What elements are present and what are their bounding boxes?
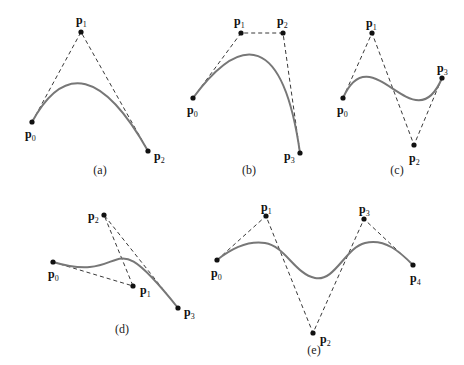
panel-caption: (e) <box>307 343 320 357</box>
bezier-curve <box>32 83 148 151</box>
control-point <box>340 95 345 100</box>
control-point <box>101 212 106 217</box>
point-label: p3 <box>284 149 295 165</box>
control-point <box>280 30 285 35</box>
point-label: p3 <box>359 202 370 218</box>
point-label: p4 <box>410 271 421 287</box>
control-polygon <box>217 216 413 333</box>
panel-e: p0p1p2p3p4(e) <box>211 200 421 357</box>
control-point <box>130 283 135 288</box>
bezier-curve <box>217 242 413 278</box>
control-point <box>310 330 315 335</box>
control-point <box>214 257 219 262</box>
point-label: p2 <box>409 151 420 167</box>
point-label: p1 <box>234 14 245 30</box>
control-point <box>78 29 83 34</box>
control-point <box>297 150 302 155</box>
point-label: p0 <box>337 103 348 119</box>
control-point <box>238 30 243 35</box>
bezier-curve <box>53 258 178 308</box>
control-point <box>175 305 180 310</box>
panel-c: p0p1p2p3(c) <box>337 16 448 177</box>
bezier-curves-diagram: p0p1p2(a)p0p1p2p3(b)p0p1p2p3(c)p0p1p2p3(… <box>0 0 464 365</box>
panel-a: p0p1p2(a) <box>25 13 165 177</box>
control-polygon <box>193 33 300 153</box>
point-label: p2 <box>320 332 331 348</box>
point-label: p1 <box>261 200 272 216</box>
control-point <box>29 119 34 124</box>
point-label: p1 <box>366 16 377 32</box>
point-label: p3 <box>184 305 195 321</box>
panel-b: p0p1p2p3(b) <box>187 14 303 177</box>
point-label: p2 <box>154 149 165 165</box>
bezier-curve <box>343 77 442 100</box>
point-label: p2 <box>88 209 99 225</box>
point-label: p1 <box>140 283 151 299</box>
point-label: p1 <box>76 13 87 29</box>
point-label: p0 <box>211 266 222 282</box>
panel-caption: (d) <box>115 322 129 336</box>
point-label: p3 <box>437 61 448 77</box>
control-point <box>410 262 415 267</box>
control-point <box>411 142 416 147</box>
point-label: p2 <box>277 14 288 30</box>
panel-caption: (c) <box>390 163 403 177</box>
point-label: p0 <box>25 127 36 143</box>
point-label: p0 <box>48 267 59 283</box>
control-point <box>145 148 150 153</box>
panel-caption: (a) <box>93 163 106 177</box>
control-point <box>50 259 55 264</box>
panel-caption: (b) <box>242 163 256 177</box>
control-polygon <box>53 215 178 308</box>
point-label: p0 <box>187 103 198 119</box>
bezier-curve <box>193 55 300 153</box>
control-point <box>190 95 195 100</box>
panel-d: p0p1p2p3(d) <box>48 209 195 336</box>
control-polygon <box>32 32 148 151</box>
